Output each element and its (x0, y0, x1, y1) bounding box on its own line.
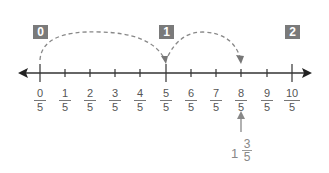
jump-arc-5-to-8 (168, 32, 240, 57)
tick-label: 65 (181, 88, 201, 113)
whole-marker-0: 0 (33, 25, 48, 39)
jump-arc-0-to-5 (40, 32, 164, 60)
tick-label: 105 (280, 88, 304, 113)
arc-arrowhead-icon (161, 56, 168, 64)
tick-label: 95 (257, 88, 277, 113)
tick-label: 45 (130, 88, 150, 113)
mixed-number-label: 1 3 5 (231, 138, 255, 164)
whole-marker-2: 2 (285, 25, 300, 39)
tick-label: 55 (156, 88, 176, 113)
tick-label: 15 (55, 88, 75, 113)
whole-marker-1: 1 (159, 25, 174, 39)
mixed-fraction: 3 5 (241, 138, 253, 163)
arc-arrowhead-icon (236, 55, 244, 64)
tick-label: 25 (80, 88, 100, 113)
tick-label: 05 (30, 88, 50, 113)
tick-label: 85 (231, 88, 251, 113)
mixed-whole: 1 (231, 146, 238, 161)
tick-label: 75 (206, 88, 226, 113)
tick-label: 35 (105, 88, 125, 113)
